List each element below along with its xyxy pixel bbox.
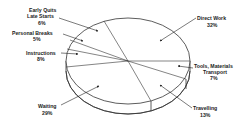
svg-text:5%: 5% [33, 36, 41, 42]
label-early-quits: Early Quits Late Starts 6% [27, 7, 98, 31]
svg-text:32%: 32% [207, 22, 218, 28]
svg-text:Direct Work: Direct Work [197, 15, 226, 21]
pie-chart: Direct Work 32% Tools, Materials Transpo… [0, 0, 252, 124]
svg-text:Late Starts: Late Starts [27, 13, 54, 19]
svg-text:8%: 8% [37, 56, 45, 62]
svg-text:Travelling: Travelling [193, 105, 217, 111]
svg-text:13%: 13% [200, 112, 211, 118]
svg-text:Waiting: Waiting [38, 103, 57, 109]
svg-text:6%: 6% [38, 20, 46, 26]
svg-text:29%: 29% [42, 110, 53, 116]
label-personal-breaks: Personal Breaks 5% [12, 30, 83, 42]
svg-text:7%: 7% [210, 75, 218, 81]
